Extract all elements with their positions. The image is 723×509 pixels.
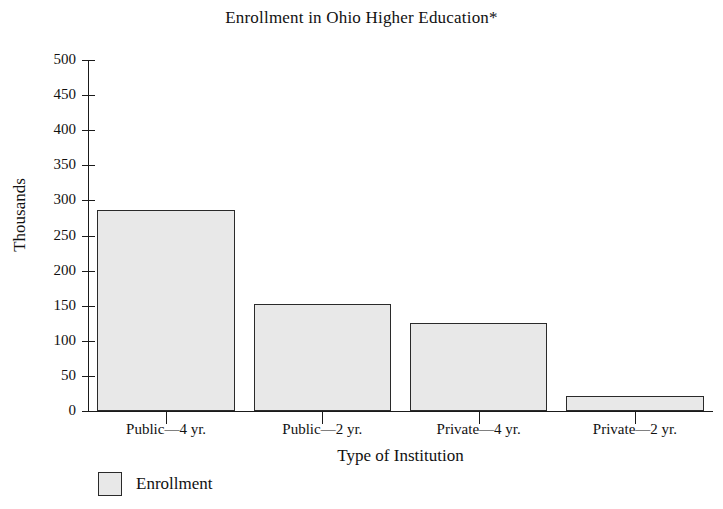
bar bbox=[97, 210, 235, 411]
x-axis-title: Type of Institution bbox=[88, 446, 713, 466]
x-axis-line bbox=[88, 411, 713, 412]
plot-area: 050100150200250300350400450500 bbox=[88, 60, 713, 411]
y-axis-tick bbox=[82, 200, 95, 201]
x-axis-category-label: Private—2 yr. bbox=[557, 420, 713, 439]
x-axis-category-label: Public—4 yr. bbox=[88, 420, 244, 439]
y-axis-tick bbox=[82, 165, 95, 166]
y-axis-tick-label: 450 bbox=[6, 85, 76, 104]
legend-label-enrollment: Enrollment bbox=[136, 474, 212, 494]
y-axis-tick bbox=[82, 376, 95, 377]
x-axis-category-label: Private—4 yr. bbox=[401, 420, 557, 439]
y-axis-tick-label: 0 bbox=[6, 401, 76, 420]
y-axis-tick-label: 150 bbox=[6, 296, 76, 315]
bar bbox=[566, 396, 704, 411]
y-axis-tick-label: 400 bbox=[6, 120, 76, 139]
chart-title: Enrollment in Ohio Higher Education* bbox=[0, 8, 723, 28]
y-axis-tick-label: 100 bbox=[6, 331, 76, 350]
y-axis-tick bbox=[82, 60, 95, 61]
y-axis-tick bbox=[82, 130, 95, 131]
bar-chart: Enrollment in Ohio Higher Education* 050… bbox=[0, 0, 723, 509]
y-axis-tick bbox=[82, 95, 95, 96]
y-axis-tick bbox=[82, 306, 95, 307]
y-axis-title: Thousands bbox=[10, 155, 30, 275]
y-axis-tick bbox=[82, 411, 95, 412]
y-axis-tick bbox=[82, 271, 95, 272]
y-axis-tick bbox=[82, 236, 95, 237]
bar bbox=[410, 323, 548, 411]
x-axis-category-label: Public—2 yr. bbox=[244, 420, 400, 439]
bar bbox=[254, 304, 392, 411]
legend-swatch-enrollment bbox=[98, 472, 122, 496]
y-axis-tick bbox=[82, 341, 95, 342]
y-axis-tick-label: 50 bbox=[6, 366, 76, 385]
chart-legend: Enrollment bbox=[98, 472, 212, 496]
y-axis-tick-label: 500 bbox=[6, 50, 76, 69]
